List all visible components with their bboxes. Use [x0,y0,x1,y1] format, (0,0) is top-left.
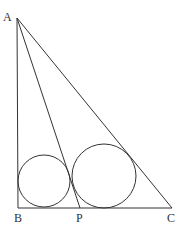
segment-ap [17,18,80,208]
segment-ac [17,18,172,208]
incircle-apc [72,144,136,208]
geometry-figure: A B P C [0,0,189,231]
label-p: P [76,211,83,225]
incircle-abp [18,155,70,207]
label-b: B [14,211,22,225]
label-c: C [167,211,175,225]
label-a: A [3,10,12,24]
